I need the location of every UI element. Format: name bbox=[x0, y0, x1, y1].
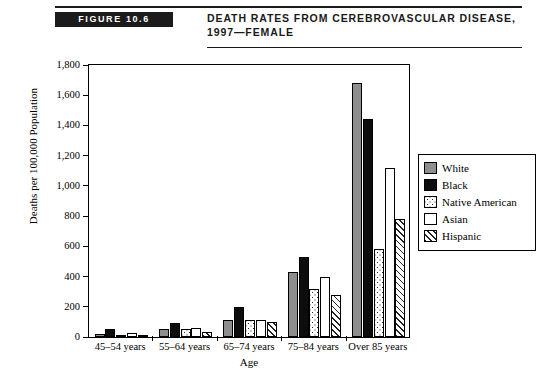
bar-native-american bbox=[374, 249, 384, 337]
bar-white bbox=[159, 329, 169, 337]
y-axis-tick-label: 1,000 bbox=[56, 180, 80, 192]
legend-swatch-icon bbox=[424, 230, 437, 242]
x-axis-title: Age bbox=[88, 356, 410, 368]
bar-native-american bbox=[245, 320, 255, 337]
bar-white bbox=[95, 334, 105, 337]
legend-swatch-icon bbox=[424, 162, 437, 174]
bar-white bbox=[352, 83, 362, 337]
x-axis-tick-mark bbox=[152, 336, 153, 341]
bar-asian bbox=[191, 328, 201, 337]
x-axis-tick-mark bbox=[217, 336, 218, 341]
legend-label: White bbox=[442, 162, 469, 174]
y-axis-tick-label: 200 bbox=[64, 301, 80, 313]
bar-hispanic bbox=[267, 322, 277, 337]
legend-item-white[interactable]: White bbox=[424, 159, 531, 176]
x-axis: 45–54 years55–64 years65–74 years75–84 y… bbox=[88, 341, 410, 357]
y-axis-tick-label: 1,200 bbox=[56, 150, 80, 162]
x-axis-tick-label: 75–84 years bbox=[281, 341, 345, 352]
bar-hispanic bbox=[138, 335, 148, 337]
plot-frame bbox=[88, 64, 410, 338]
legend: WhiteBlackNative AmericanAsianHispanic bbox=[418, 154, 536, 251]
legend-label: Black bbox=[442, 179, 468, 191]
y-axis-tick-label: 1,800 bbox=[56, 59, 80, 71]
figure-header: FIGURE 10.6 DEATH RATES FROM CEREBROVASC… bbox=[55, 6, 522, 48]
legend-label: Hispanic bbox=[442, 230, 481, 242]
legend-swatch-icon bbox=[424, 196, 437, 208]
header-top-rule bbox=[55, 6, 522, 8]
bar-native-american bbox=[181, 329, 191, 337]
legend-swatch-icon bbox=[424, 213, 437, 225]
bar-asian bbox=[127, 333, 137, 337]
bar-hispanic bbox=[395, 219, 405, 337]
figure-title-line-1: DEATH RATES FROM CEREBROVASCULAR DISEASE… bbox=[207, 11, 522, 25]
legend-item-black[interactable]: Black bbox=[424, 176, 531, 193]
header-bottom-rule bbox=[207, 47, 522, 48]
legend-item-asian[interactable]: Asian bbox=[424, 210, 531, 227]
bar-asian bbox=[256, 320, 266, 337]
legend-label: Asian bbox=[442, 213, 468, 225]
legend-label: Native American bbox=[442, 196, 517, 208]
bar-white bbox=[223, 320, 233, 337]
bar-black bbox=[170, 323, 180, 337]
x-axis-tick-label: 45–54 years bbox=[88, 341, 152, 352]
y-axis-tick-label: 0 bbox=[75, 331, 80, 343]
y-axis-tick-label: 1,600 bbox=[56, 89, 80, 101]
x-axis-tick-mark bbox=[281, 336, 282, 341]
bar-black bbox=[363, 119, 373, 337]
plot-area bbox=[89, 65, 409, 337]
y-axis-title: Deaths per 100,000 Population bbox=[27, 31, 39, 281]
bar-asian bbox=[385, 168, 395, 337]
y-axis-tick-label: 800 bbox=[64, 210, 80, 222]
y-axis-tick-label: 600 bbox=[64, 240, 80, 252]
x-axis-tick-mark bbox=[346, 336, 347, 341]
figure-title: DEATH RATES FROM CEREBROVASCULAR DISEASE… bbox=[207, 11, 522, 39]
bar-hispanic bbox=[202, 332, 212, 337]
bar-native-american bbox=[116, 335, 126, 337]
y-axis: 02004006008001,0001,2001,4001,6001,800 bbox=[0, 64, 88, 338]
bar-black bbox=[299, 257, 309, 337]
bar-native-american bbox=[309, 289, 319, 337]
bar-white bbox=[288, 272, 298, 337]
x-axis-tick-label: 65–74 years bbox=[217, 341, 281, 352]
figure-number-badge: FIGURE 10.6 bbox=[55, 12, 173, 27]
legend-swatch-icon bbox=[424, 179, 437, 191]
figure-title-line-2: 1997—FEMALE bbox=[207, 25, 522, 39]
x-axis-tick-label: 55–64 years bbox=[152, 341, 216, 352]
bar-black bbox=[105, 329, 115, 337]
legend-item-native-american[interactable]: Native American bbox=[424, 193, 531, 210]
x-axis-tick-label: Over 85 years bbox=[346, 341, 410, 352]
legend-item-hispanic[interactable]: Hispanic bbox=[424, 227, 531, 244]
y-axis-tick-label: 400 bbox=[64, 271, 80, 283]
bar-asian bbox=[320, 277, 330, 337]
y-axis-tick-label: 1,400 bbox=[56, 119, 80, 131]
bar-black bbox=[234, 307, 244, 337]
bar-hispanic bbox=[331, 295, 341, 337]
